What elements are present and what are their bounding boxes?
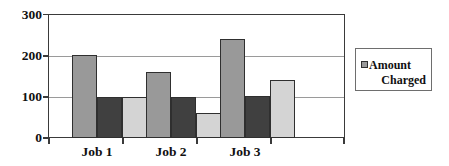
- x-tick-label-job2: Job 2: [134, 144, 208, 160]
- x-tick-label-job1: Job 1: [60, 144, 134, 160]
- x-axis-labels: Job 1 Job 2 Job 3: [48, 144, 345, 164]
- x-tick-label-job3: Job 3: [208, 144, 282, 160]
- bar-job3-series2: [245, 96, 270, 138]
- bar-job3-series1: [220, 39, 245, 138]
- y-tick-label-100: 100: [0, 90, 42, 104]
- y-tick-label-0: 0: [0, 131, 42, 145]
- legend-label-line-1: Amount: [369, 58, 411, 72]
- legend-row-top: Amount: [361, 55, 427, 73]
- y-tick-label-300: 300: [0, 8, 42, 22]
- legend-item-amount-charged: Amount Charged: [361, 55, 427, 88]
- bar-chart: 300 200 100 0 Job 1: [0, 0, 449, 166]
- legend: Amount Charged: [355, 48, 432, 91]
- bar-job1-series2: [97, 97, 122, 138]
- bar-job2-series2: [171, 97, 196, 138]
- y-tick-label-200: 200: [0, 49, 42, 63]
- legend-swatch-icon: [361, 61, 368, 68]
- bar-job1-series1: [72, 55, 97, 138]
- bars-layer: [48, 14, 345, 138]
- bar-job3-series3: [270, 80, 295, 138]
- bar-job1-series3: [122, 97, 147, 138]
- bar-job2-series3: [196, 113, 221, 138]
- bar-job2-series1: [146, 72, 171, 138]
- legend-label-line-2: Charged: [361, 73, 427, 88]
